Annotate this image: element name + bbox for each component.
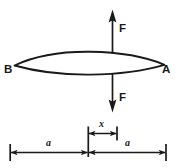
force-up-label: F: [119, 23, 126, 35]
dimension-a-right-label: a: [125, 138, 130, 148]
lens-outline-path: [15, 52, 165, 75]
force-down-arrow: [109, 74, 117, 113]
dimension-a-left-label: a: [46, 138, 51, 148]
dimension-x-label: x: [99, 119, 104, 129]
diagram-canvas: [0, 0, 177, 168]
bowed-member-shape: [15, 52, 165, 75]
force-up-arrow: [109, 10, 117, 54]
point-b-label: B: [4, 64, 12, 76]
force-diagram-figure: F F B A x a a: [0, 0, 177, 168]
point-a-label: A: [162, 64, 170, 76]
force-down-label: F: [119, 92, 126, 104]
